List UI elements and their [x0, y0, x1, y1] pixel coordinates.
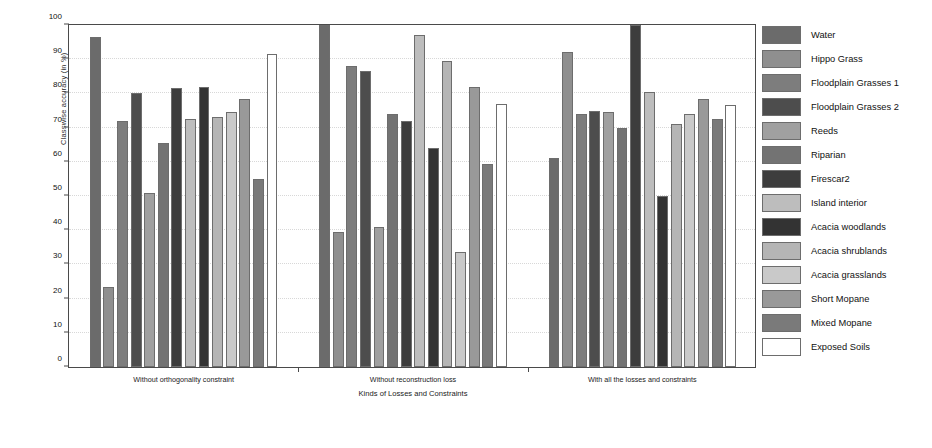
bar: [428, 148, 439, 367]
legend-label: Floodplain Grasses 1: [811, 78, 899, 88]
bar: [589, 111, 600, 368]
y-tick-label: 30: [53, 251, 69, 260]
bar: [158, 143, 169, 367]
bar: [630, 25, 641, 367]
legend-label: Acacia grasslands: [811, 270, 886, 280]
y-tick-label: 20: [53, 285, 69, 294]
y-tick-label: 40: [53, 217, 69, 226]
bar: [603, 112, 614, 367]
legend-swatch: [762, 266, 801, 284]
bar: [90, 37, 101, 367]
legend-label: Floodplain Grasses 2: [811, 102, 899, 112]
legend-label: Exposed Soils: [811, 342, 870, 352]
bar: [199, 87, 210, 367]
bar: [226, 112, 237, 367]
bar: [562, 52, 573, 367]
bar: [346, 66, 357, 367]
bar: [239, 99, 250, 367]
legend-label: Firescar2: [811, 174, 850, 184]
x-axis-title: Kinds of Losses and Constraints: [359, 389, 468, 398]
bar: [360, 71, 371, 367]
legend-label: Mixed Mopane: [811, 318, 872, 328]
legend-item[interactable]: Exposed Soils: [762, 336, 928, 358]
legend-label: Riparian: [811, 150, 846, 160]
bar-chart: Classwise accuracy (in %) 01020304050607…: [0, 0, 932, 448]
legend-item[interactable]: Short Mopane: [762, 288, 928, 310]
legend-swatch: [762, 170, 801, 188]
bar: [253, 179, 264, 367]
legend-item[interactable]: Floodplain Grasses 1: [762, 72, 928, 94]
bar: [131, 93, 142, 367]
bar: [333, 232, 344, 367]
bar: [671, 124, 682, 367]
legend-item[interactable]: Reeds: [762, 120, 928, 142]
legend-swatch: [762, 242, 801, 260]
legend-label: Acacia shrublands: [811, 246, 887, 256]
y-tick-label: 60: [53, 148, 69, 157]
legend-swatch: [762, 146, 801, 164]
bar: [374, 227, 385, 367]
bar: [684, 114, 695, 367]
legend-label: Acacia woodlands: [811, 222, 886, 232]
legend-label: Hippo Grass: [811, 54, 863, 64]
legend-item[interactable]: Floodplain Grasses 2: [762, 96, 928, 118]
legend-swatch: [762, 50, 801, 68]
legend-swatch: [762, 338, 801, 356]
bar: [482, 164, 493, 367]
bar: [496, 104, 507, 367]
y-tick-label: 100: [49, 12, 69, 21]
bar: [144, 193, 155, 367]
bar: [549, 158, 560, 367]
bar: [644, 92, 655, 367]
y-tick-label: 0: [58, 354, 69, 363]
y-tick-label: 70: [53, 114, 69, 123]
bar: [401, 121, 412, 367]
bar: [657, 196, 668, 367]
bar: [185, 119, 196, 367]
y-tick-label: 90: [53, 46, 69, 55]
legend-swatch: [762, 74, 801, 92]
legend-swatch: [762, 98, 801, 116]
bars-layer: [69, 25, 755, 367]
bar: [469, 87, 480, 367]
legend-swatch: [762, 26, 801, 44]
legend-label: Short Mopane: [811, 294, 869, 304]
bar: [576, 114, 587, 367]
bar: [319, 25, 330, 367]
bar: [387, 114, 398, 367]
bar: [698, 99, 709, 367]
legend-swatch: [762, 194, 801, 212]
legend-item[interactable]: Water: [762, 24, 928, 46]
bar: [712, 119, 723, 367]
legend-label: Reeds: [811, 126, 838, 136]
legend-swatch: [762, 290, 801, 308]
legend-item[interactable]: Acacia grasslands: [762, 264, 928, 286]
x-group-label: Without orthogonality constraint: [133, 375, 234, 384]
bar: [103, 287, 114, 367]
legend-item[interactable]: Mixed Mopane: [762, 312, 928, 334]
x-group-tick: [298, 367, 299, 372]
legend-item[interactable]: Island interior: [762, 192, 928, 214]
legend-label: Water: [811, 30, 835, 40]
bar: [212, 117, 223, 367]
legend-item[interactable]: Firescar2: [762, 168, 928, 190]
legend-swatch: [762, 314, 801, 332]
x-group-tick: [528, 367, 529, 372]
plot-area: Classwise accuracy (in %) 01020304050607…: [68, 24, 756, 368]
bar: [414, 35, 425, 367]
legend-item[interactable]: Acacia woodlands: [762, 216, 928, 238]
legend-item[interactable]: Riparian: [762, 144, 928, 166]
legend: WaterHippo GrassFloodplain Grasses 1Floo…: [762, 24, 928, 358]
bar: [617, 128, 628, 367]
bar: [455, 252, 466, 367]
y-tick-label: 10: [53, 319, 69, 328]
legend-item[interactable]: Hippo Grass: [762, 48, 928, 70]
x-group-label: Without reconstruction loss: [370, 375, 456, 384]
y-tick-label: 50: [53, 183, 69, 192]
x-group-label: With all the losses and constraints: [588, 375, 697, 384]
bar: [442, 61, 453, 367]
legend-swatch: [762, 218, 801, 236]
legend-item[interactable]: Acacia shrublands: [762, 240, 928, 262]
bar: [117, 121, 128, 367]
bar: [267, 54, 278, 367]
